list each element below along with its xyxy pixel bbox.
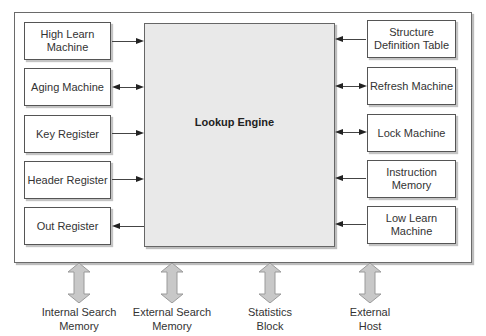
arrowhead-right-icon bbox=[136, 130, 144, 136]
arrowhead-right-icon bbox=[359, 129, 367, 135]
block-label-line: Memory bbox=[386, 179, 437, 192]
bidirectional-arrow-icon bbox=[161, 263, 183, 303]
internal-search-memory-label: Internal Search Memory bbox=[29, 305, 129, 333]
label-line: Memory bbox=[29, 319, 129, 333]
block-label-line: Structure bbox=[374, 26, 449, 39]
label-line: External Search bbox=[122, 305, 222, 319]
arrowhead-left-icon bbox=[335, 129, 343, 135]
label-line: External bbox=[320, 305, 420, 319]
arrowhead-right-icon bbox=[136, 176, 144, 182]
label-line: Statistics bbox=[220, 305, 320, 319]
arrowhead-left-icon bbox=[335, 83, 343, 89]
label-line: Internal Search bbox=[29, 305, 129, 319]
block-label-line: Definition Table bbox=[374, 39, 449, 52]
block-label-line: Header Register bbox=[27, 174, 107, 187]
bidirectional-arrow-icon bbox=[68, 263, 90, 303]
block-label-line: Instruction bbox=[386, 166, 437, 179]
arrowhead-left-icon bbox=[112, 84, 120, 90]
block-label-line: Machine bbox=[41, 41, 95, 54]
refresh-machine-block: Refresh Machine bbox=[367, 67, 456, 105]
out-register-block: Out Register bbox=[24, 207, 111, 245]
label-line: Block bbox=[220, 319, 320, 333]
block-label-line: Aging Machine bbox=[31, 81, 104, 94]
block-label-line: Refresh Machine bbox=[370, 80, 453, 93]
arrowhead-left-icon bbox=[335, 36, 343, 42]
external-search-memory-label: External Search Memory bbox=[122, 305, 222, 333]
label-line: Host bbox=[320, 319, 420, 333]
high-learn-machine-block: High LearnMachine bbox=[24, 22, 111, 60]
arrowhead-left-icon bbox=[335, 175, 343, 181]
bidirectional-arrow-icon bbox=[359, 263, 381, 303]
block-label-line: Lock Machine bbox=[378, 127, 446, 140]
aging-machine-block: Aging Machine bbox=[24, 68, 111, 106]
arrowhead-left-icon bbox=[112, 223, 120, 229]
header-register-block: Header Register bbox=[24, 161, 111, 199]
label-line: Memory bbox=[122, 319, 222, 333]
arrowhead-right-icon bbox=[359, 83, 367, 89]
block-label-line: Low Learn bbox=[386, 212, 437, 225]
statistics-block-label: Statistics Block bbox=[220, 305, 320, 333]
low-learn-machine-block: Low LearnMachine bbox=[367, 206, 456, 244]
block-label-line: High Learn bbox=[41, 28, 95, 41]
arrowhead-left-icon bbox=[335, 221, 343, 227]
block-label-line: Key Register bbox=[36, 128, 99, 141]
lookup-engine-block: Lookup Engine bbox=[144, 23, 335, 247]
block-label-line: Machine bbox=[386, 225, 437, 238]
structure-definition-table-block: StructureDefinition Table bbox=[367, 20, 456, 58]
external-host-label: External Host bbox=[320, 305, 420, 333]
instruction-memory-block: InstructionMemory bbox=[367, 160, 456, 198]
arrowhead-right-icon bbox=[136, 38, 144, 44]
block-label-line: Out Register bbox=[37, 220, 99, 233]
bidirectional-arrow-icon bbox=[259, 263, 281, 303]
arrowhead-right-icon bbox=[136, 84, 144, 90]
lock-machine-block: Lock Machine bbox=[367, 114, 456, 152]
lookup-engine-label: Lookup Engine bbox=[195, 116, 274, 128]
key-register-block: Key Register bbox=[24, 115, 111, 153]
